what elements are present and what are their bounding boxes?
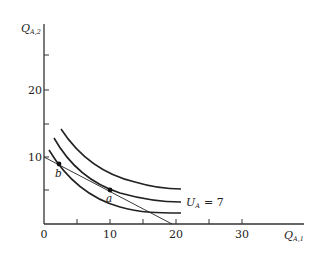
indifference-chart: 0 10 20 30 10 20 QA,2 QA,1 b a UA= 7	[0, 0, 325, 253]
x-axis-label: QA,1	[284, 229, 304, 243]
x-tick-10: 10	[103, 228, 117, 241]
point-b-marker	[57, 162, 62, 167]
indifference-curve-u7	[54, 138, 181, 202]
point-a-label: a	[106, 192, 112, 204]
indifference-curve-upper	[61, 129, 181, 189]
x-tick-0: 0	[41, 228, 48, 241]
y-axis-label: QA,2	[21, 22, 41, 36]
y-ticks	[44, 55, 49, 190]
curve-annotation: UA= 7	[186, 196, 224, 210]
y-tick-20: 20	[28, 84, 42, 97]
point-b-label: b	[55, 167, 62, 179]
y-tick-10: 10	[28, 151, 42, 164]
x-tick-30: 30	[235, 228, 249, 241]
x-tick-20: 20	[169, 228, 183, 241]
x-ticks	[77, 219, 242, 224]
